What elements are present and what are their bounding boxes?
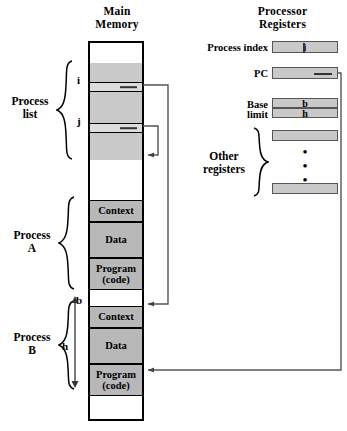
diagram-canvas: Main Memory Processor Registers Context …	[0, 0, 347, 431]
processor-registers-heading-line2: Registers	[230, 18, 335, 31]
measure-arrow-down	[72, 381, 79, 388]
processor-registers-heading-line1: Processor	[230, 5, 335, 18]
register-box-pc[interactable]	[272, 67, 338, 79]
other-registers-label: Other registers	[195, 150, 253, 176]
processor-registers-heading: Processor Registers	[230, 5, 335, 30]
register-label-limit: limit	[210, 109, 268, 120]
register-box-limit[interactable]: h	[272, 108, 338, 118]
memory-cell-process-b-context: Context	[90, 306, 142, 328]
process-a-context-label: Context	[98, 205, 134, 217]
main-memory-heading-line1: Main	[78, 5, 156, 18]
process-b-program-label-line2: (code)	[102, 380, 129, 392]
process-a-data-label: Data	[105, 234, 127, 246]
process-index-tick	[303, 43, 305, 53]
register-box-other-bottom[interactable]	[272, 183, 338, 194]
register-label-pc: PC	[208, 68, 268, 79]
process-b-height-measure	[66, 296, 86, 388]
process-a-label-line1: Process	[6, 229, 58, 242]
register-box-process-index[interactable]: i	[272, 41, 338, 53]
memory-cell-empty-bottom	[90, 396, 142, 418]
memory-cell-empty-2	[90, 290, 142, 306]
memory-cell-empty-top	[90, 43, 142, 63]
process-b-label-line1: Process	[6, 331, 58, 344]
register-value-process-index: i	[273, 43, 337, 52]
memory-cell-process-list-2	[90, 92, 142, 123]
process-a-label-line2: A	[6, 242, 58, 255]
process-b-context-label: Context	[98, 311, 134, 323]
process-i-pointer-dash	[120, 86, 137, 88]
process-a-program-label-line2: (code)	[102, 274, 129, 286]
row-marker-j: j	[77, 115, 81, 127]
other-registers-ellipsis: • • •	[272, 147, 338, 185]
memory-cell-process-list-1	[90, 63, 142, 82]
main-memory-heading-line2: Memory	[78, 18, 156, 31]
memory-cell-process-i	[90, 82, 142, 92]
memory-cell-process-list-3	[90, 133, 142, 160]
other-registers-brace	[252, 127, 269, 197]
memory-cell-process-a-context: Context	[90, 200, 142, 222]
pc-pointer-dash	[314, 73, 332, 75]
other-registers-label-line2: registers	[195, 163, 253, 176]
memory-cell-process-j	[90, 123, 142, 133]
process-list-label-line2: list	[4, 108, 56, 121]
memory-cell-process-b-program: Program (code)	[90, 364, 142, 396]
ellipsis-dot-1: •	[272, 147, 338, 157]
register-label-process-index: Process index	[192, 42, 268, 53]
process-b-program-label-line1: Program	[96, 369, 136, 381]
other-registers-label-line1: Other	[195, 150, 253, 163]
main-memory-column: Context Data Program (code) Context Data…	[88, 41, 144, 421]
process-a-label: Process A	[6, 229, 58, 255]
register-value-base: b	[302, 99, 308, 108]
memory-cell-process-a-data: Data	[90, 222, 142, 258]
process-a-program-label-line1: Program	[96, 263, 136, 275]
connector-j-to-free-block	[143, 126, 158, 155]
memory-cell-process-b-data: Data	[90, 328, 142, 364]
row-marker-i: i	[77, 74, 80, 86]
process-list-brace	[56, 60, 74, 160]
register-box-base[interactable]: b	[272, 98, 338, 108]
connector-i-to-process-b	[143, 85, 168, 304]
process-b-data-label: Data	[105, 340, 127, 352]
process-list-label-line1: Process	[4, 95, 56, 108]
connector-lines	[0, 0, 347, 431]
main-memory-heading: Main Memory	[78, 5, 156, 30]
process-b-label: Process B	[6, 331, 58, 357]
process-a-brace	[58, 196, 76, 290]
measure-arrow-up	[72, 296, 79, 303]
register-box-other-top[interactable]	[272, 130, 338, 141]
ellipsis-dot-2: •	[272, 161, 338, 171]
memory-cell-process-a-program: Program (code)	[90, 258, 142, 290]
process-b-label-line2: B	[6, 344, 58, 357]
memory-cell-empty-1	[90, 160, 142, 200]
process-list-label: Process list	[4, 95, 56, 121]
process-j-pointer-dash	[120, 127, 137, 129]
register-value-limit: h	[302, 109, 308, 118]
